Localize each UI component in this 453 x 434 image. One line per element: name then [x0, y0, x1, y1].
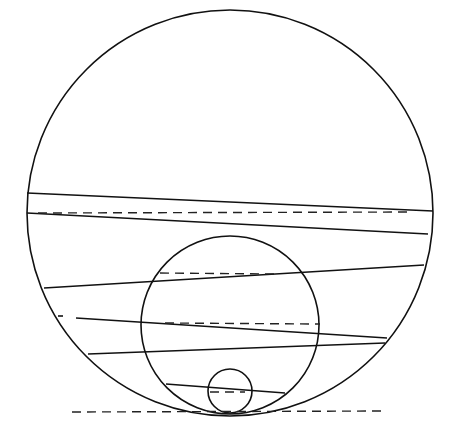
chord-3 [44, 265, 424, 288]
inner-circle [208, 369, 252, 413]
middle-upper-dash [160, 273, 275, 274]
middle-lower-dash [165, 323, 320, 324]
chord-5 [88, 343, 385, 354]
dashed-lines-layer [38, 212, 412, 412]
chord-4 [76, 318, 387, 338]
chord-1 [27, 193, 433, 211]
solid-lines-layer [27, 193, 433, 393]
nested-circles-diagram [0, 0, 453, 434]
outer-diameter-dash [38, 212, 412, 213]
chord-2 [27, 213, 428, 234]
tangent-baseline-dash [72, 411, 386, 412]
middle-circle [141, 236, 319, 414]
